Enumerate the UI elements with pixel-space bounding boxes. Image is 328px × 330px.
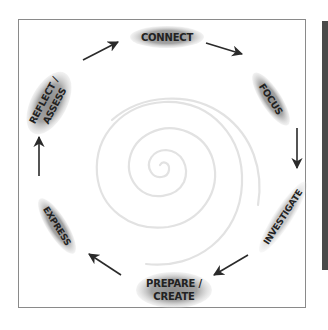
node-connect-label: CONNECT — [141, 32, 194, 43]
node-focus: FOCUS — [246, 68, 297, 131]
node-prepare-create: PREPARE / CREATE — [136, 272, 212, 308]
spiral-background — [97, 99, 260, 265]
cycle-diagram: CONNECT FOCUS INVESTIGATE PREPARE / CREA… — [0, 0, 328, 330]
node-connect: CONNECT — [130, 26, 204, 48]
arrow-connect-to-focus — [206, 43, 242, 54]
node-prepare-create-label-line1: PREPARE / — [146, 278, 202, 289]
node-investigate: INVESTIGATE — [253, 177, 314, 257]
node-investigate-label: INVESTIGATE — [261, 188, 304, 247]
node-prepare-create-label-line2: CREATE — [153, 291, 195, 302]
arrow-prepare-to-express — [89, 254, 121, 275]
node-express: EXPRESS — [32, 194, 83, 259]
arrow-investigate-to-prepare — [214, 255, 248, 275]
node-reflect-assess: REFLECT / ASSESS — [17, 65, 81, 142]
arrow-reflect-to-connect — [83, 42, 118, 60]
